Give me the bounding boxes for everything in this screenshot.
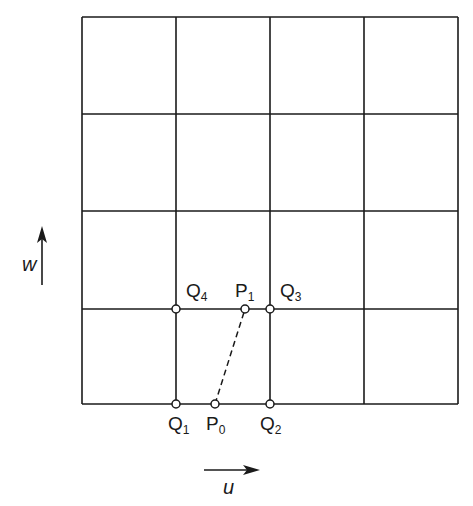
grid xyxy=(82,17,458,404)
point-q4-label: Q4 xyxy=(186,280,208,304)
point-q1-marker xyxy=(172,400,180,408)
point-q1-label: Q1 xyxy=(168,413,190,437)
w-axis-arrow: w xyxy=(22,226,47,285)
point-labels: Q1P0Q2Q3P1Q4 xyxy=(168,280,302,437)
point-p1-label: P1 xyxy=(235,280,255,304)
point-q4-marker xyxy=(172,305,180,313)
point-q2-label: Q2 xyxy=(260,413,282,437)
point-p0-label: P0 xyxy=(206,413,226,437)
w-axis-label: w xyxy=(22,253,38,275)
points xyxy=(172,305,274,408)
point-q3-marker xyxy=(266,305,274,313)
point-p1-marker xyxy=(241,305,249,313)
point-p0-marker xyxy=(211,400,219,408)
point-q2-marker xyxy=(266,400,274,408)
dashed-segment-p0-p1 xyxy=(215,309,245,404)
parametric-grid-diagram: Q1P0Q2Q3P1Q4 w u xyxy=(0,0,473,506)
dashed-line xyxy=(215,309,245,404)
u-axis-arrow: u xyxy=(204,465,260,498)
point-q3-label: Q3 xyxy=(280,280,302,304)
u-axis-label: u xyxy=(223,476,234,498)
